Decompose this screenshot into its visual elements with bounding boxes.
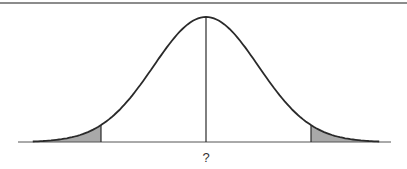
center-x-label: ? xyxy=(202,150,209,165)
right-tail-shaded-region xyxy=(311,125,379,142)
normal-distribution-chart: ? xyxy=(0,0,407,169)
left-tail-shaded-region xyxy=(33,125,101,142)
